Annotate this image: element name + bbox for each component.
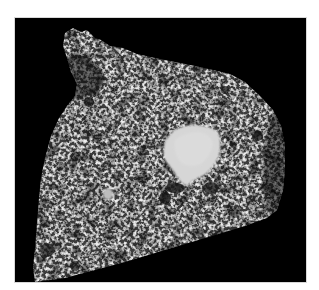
small-bright-inclusion [103, 188, 113, 200]
micrograph-frame [15, 18, 306, 282]
sample-cross-section-image [15, 18, 306, 282]
